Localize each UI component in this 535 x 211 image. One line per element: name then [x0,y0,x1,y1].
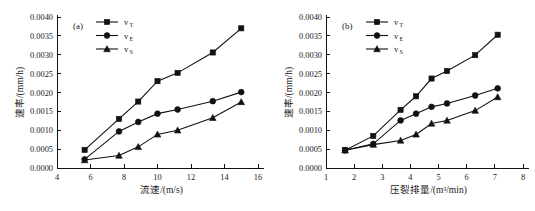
marker-circle [429,104,435,110]
x-tick-label: 7 [493,173,497,182]
y-tick-label: 0.0005 [299,145,322,154]
marker-square [239,26,244,31]
marker-square [104,19,109,24]
legend-label-sub-v_T: T [400,22,404,28]
legend-item-v_T: vT [96,17,134,28]
marker-square [413,94,418,99]
x-tick-label: 2 [352,173,356,182]
marker-square [82,147,87,152]
y-tick-label: 0.0030 [30,51,53,60]
y-tick-label: 0.0020 [30,89,53,98]
marker-circle [495,85,501,91]
legend-label-sub-v_T: T [130,22,134,28]
marker-triangle [413,131,420,137]
marker-circle [210,98,216,104]
legend-label-v_E: v [394,31,399,41]
marker-square [444,68,449,73]
x-tick-label: 12 [187,173,195,182]
marker-triangle [494,94,501,100]
legend-label-v_T: v [394,17,399,27]
marker-square [175,70,180,75]
y-tick-label: 0.0020 [299,89,322,98]
marker-square [116,116,121,121]
marker-circle [374,33,380,39]
chart-panel-a: 0.00000.00050.00100.00150.00200.00250.00… [0,0,267,211]
marker-circle [175,107,181,113]
x-tick-label: 6 [465,173,469,182]
chart-b-canvas: 0.00000.00050.00100.00150.00200.00250.00… [268,0,535,211]
y-tick-label: 0.0030 [299,51,322,60]
chart-a-canvas: 0.00000.00050.00100.00150.00200.00250.00… [0,0,267,211]
x-tick-label: 14 [220,173,229,182]
x-tick-label: 16 [254,173,262,182]
legend-label-v_S: v [394,44,399,54]
marker-square [398,107,403,112]
marker-square [210,50,215,55]
marker-circle [116,128,122,134]
legend-label-v_S: v [124,44,129,54]
marker-square [371,133,376,138]
marker-triangle [472,107,479,113]
x-tick-label: 8 [521,173,525,182]
x-axis-title: 压裂排量/(m³/min) [390,184,467,196]
series-v_T [343,32,501,153]
y-tick-label: 0.0040 [30,13,53,22]
marker-circle [413,111,419,117]
series-line-v_S [85,102,242,160]
legend-item-v_E: vE [96,31,134,42]
marker-triangle [116,152,123,158]
legend-item-v_S: vS [366,44,403,55]
marker-circle [104,33,110,39]
y-tick-label: 0.0035 [299,32,322,41]
legend-item-v_T: vT [366,17,404,28]
x-tick-label: 8 [122,173,126,182]
x-tick-label: 4 [55,173,60,182]
series-line-v_E [85,92,242,159]
x-tick-label: 4 [408,173,413,182]
marker-square [429,76,434,81]
legend-label-sub-v_E: E [400,36,404,42]
marker-square [374,19,379,24]
marker-circle [238,89,244,95]
legend-label-sub-v_S: S [400,49,403,55]
x-axis-title: 流速/(m/s) [140,184,183,196]
x-tick-label: 1 [324,173,328,182]
series-line-v_T [85,28,242,150]
y-tick-label: 0.0035 [30,32,53,41]
marker-circle [398,118,404,124]
legend-label-v_T: v [124,17,129,27]
y-tick-label: 0.0005 [30,145,53,154]
x-tick-label: 5 [436,173,440,182]
x-tick-label: 6 [88,173,92,182]
marker-square [136,99,141,104]
figure-two-panel-line-charts: 0.00000.00050.00100.00150.00200.00250.00… [0,0,535,211]
marker-triangle [238,99,245,105]
marker-circle [135,119,141,125]
series-v_E [342,85,500,153]
x-tick-label: 10 [153,173,161,182]
series-line-v_S [345,97,498,150]
marker-square [495,32,500,37]
legend-label-sub-v_S: S [130,49,133,55]
y-tick-label: 0.0000 [30,164,53,173]
marker-circle [444,101,450,107]
series-v_S [342,94,501,153]
y-axis-title: 速率/(mm/h) [14,67,26,118]
marker-square [155,79,160,84]
panel-tag: (a) [73,21,83,31]
y-tick-label: 0.0015 [30,107,53,116]
x-tick-label: 3 [380,173,384,182]
marker-circle [472,93,478,99]
legend-label-sub-v_E: E [130,36,134,42]
series-v_E [82,89,244,162]
marker-square [473,53,478,58]
marker-triangle [397,137,404,143]
y-tick-label: 0.0040 [299,13,322,22]
y-axis-title: 速率/(mm/h) [283,67,295,118]
legend-label-v_E: v [124,31,129,41]
y-tick-label: 0.0015 [299,107,322,116]
legend-item-v_E: vE [366,31,404,42]
y-tick-label: 0.0025 [299,70,322,79]
y-tick-label: 0.0010 [299,126,322,135]
marker-triangle [135,144,142,150]
